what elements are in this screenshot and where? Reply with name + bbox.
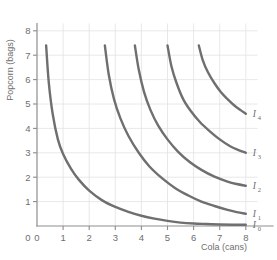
y-tick-label: 3 <box>25 147 30 158</box>
y-tick-label: 4 <box>25 123 30 134</box>
curve-label-sub-i1: 1 <box>258 214 261 221</box>
y-tick-label: 0 <box>25 232 30 243</box>
curve-label-i4: I <box>252 109 257 119</box>
x-tick-label: 6 <box>191 232 196 243</box>
x-tick-label: 5 <box>165 232 170 243</box>
curve-label-sub-i3: 3 <box>258 153 261 160</box>
curve-i3 <box>168 45 246 152</box>
grid-lines <box>37 23 258 226</box>
x-axis-title: Cola (cans) <box>201 242 247 252</box>
chart-canvas: 012345678012345678 I0I1I2I3I4 Cola (cans… <box>0 0 277 260</box>
indifference-curve-chart: 012345678012345678 I0I1I2I3I4 Cola (cans… <box>0 0 277 260</box>
curve-label-i3: I <box>252 148 257 158</box>
x-tick-label: 0 <box>34 232 39 243</box>
curve-i2 <box>135 45 246 185</box>
curve-label-i2: I <box>252 181 257 191</box>
y-tick-label: 6 <box>25 74 30 85</box>
y-tick-label: 1 <box>25 196 30 207</box>
y-tick-label: 8 <box>25 25 30 36</box>
curve-label-sub-i0: 0 <box>258 225 261 232</box>
curve-i1 <box>105 45 246 213</box>
x-tick-label: 4 <box>139 232 144 243</box>
curve-labels: I0I1I2I3I4 <box>252 109 262 232</box>
curves <box>46 45 246 224</box>
curve-label-i1: I <box>252 209 257 219</box>
tick-marks <box>33 31 246 230</box>
axes <box>37 23 273 226</box>
x-tick-label: 1 <box>60 232 65 243</box>
y-tick-label: 5 <box>25 98 30 109</box>
x-tick-label: 2 <box>87 232 92 243</box>
curve-label-sub-i2: 2 <box>258 186 261 193</box>
x-tick-label: 3 <box>113 232 118 243</box>
y-tick-label: 7 <box>25 50 30 61</box>
y-axis-title: Popcorn (bags) <box>5 39 15 101</box>
curve-label-sub-i4: 4 <box>258 114 262 121</box>
curve-label-i0: I <box>252 220 257 230</box>
y-tick-label: 2 <box>25 172 30 183</box>
